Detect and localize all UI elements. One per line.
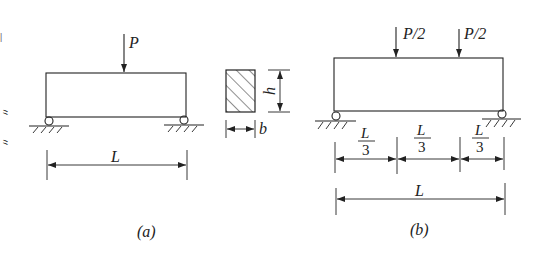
- width-label: b: [259, 120, 267, 137]
- load-label-right: P/2: [463, 25, 486, 42]
- segment-dimensions: L 3 L 3 L 3: [335, 122, 504, 174]
- span-label-a: L: [110, 148, 120, 165]
- svg-text:L: L: [360, 125, 369, 141]
- caption-a: (a): [137, 223, 156, 241]
- span-dimension-b: L: [336, 182, 505, 215]
- svg-text:3: 3: [418, 139, 426, 155]
- support-left-b: [315, 112, 356, 129]
- support-left-a: [29, 117, 69, 133]
- segment-label-2: L 3: [414, 122, 431, 155]
- span-label-b: L: [414, 182, 424, 199]
- height-label: h: [261, 87, 278, 95]
- svg-text:L: L: [474, 122, 483, 138]
- beam-b: [334, 58, 503, 111]
- svg-text:3: 3: [476, 139, 484, 155]
- support-right-b: [482, 110, 521, 127]
- svg-text:3: 3: [362, 142, 370, 158]
- beam-a: [46, 73, 186, 117]
- figure-b: P/2 P/2: [315, 25, 521, 239]
- load-label-left: P/2: [402, 25, 425, 42]
- section-rect: [226, 70, 255, 112]
- svg-text:⺀: ⺀: [0, 108, 11, 120]
- caption-b: (b): [410, 221, 429, 239]
- svg-text:|: |: [0, 30, 2, 42]
- side-text-fragment: | ⺀ ⺀: [0, 30, 11, 150]
- figure-a: P L (a): [29, 34, 204, 241]
- svg-text:L: L: [416, 122, 425, 138]
- cross-section: h b: [226, 70, 290, 138]
- svg-text:⺀: ⺀: [0, 138, 11, 150]
- span-dimension-a: L: [47, 148, 187, 180]
- segment-label-1: L 3: [358, 125, 375, 158]
- support-right-a: [164, 116, 204, 132]
- beam-loading-figure: | ⺀ ⺀ P: [0, 0, 541, 255]
- load-label-p: P: [128, 34, 139, 51]
